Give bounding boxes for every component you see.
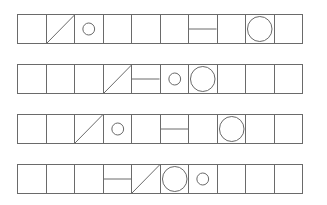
cell-empty — [188, 114, 218, 144]
cell-empty — [274, 14, 304, 44]
cell-empty — [274, 114, 304, 144]
horizontal-line-icon — [161, 115, 189, 143]
cell-small-circle — [103, 114, 133, 144]
diagonal-line-icon — [47, 15, 75, 43]
cell-large-circle — [160, 164, 190, 194]
large-circle-icon — [218, 115, 246, 143]
cell-empty — [131, 14, 161, 44]
diagonal-line-icon — [75, 115, 103, 143]
cell-horizontal-line — [160, 114, 190, 144]
small-circle-icon — [104, 115, 132, 143]
cell-empty — [17, 164, 47, 194]
cell-small-circle — [160, 64, 190, 94]
cell-large-circle — [217, 114, 247, 144]
cell-empty — [74, 164, 104, 194]
cell-large-circle — [188, 64, 218, 94]
small-circle-icon — [75, 15, 103, 43]
horizontal-line-icon — [104, 165, 132, 193]
cell-empty — [46, 164, 76, 194]
cell-empty — [217, 164, 247, 194]
cell-horizontal-line — [103, 164, 133, 194]
cell-empty — [245, 164, 275, 194]
horizontal-line-icon — [189, 15, 217, 43]
cell-empty — [131, 114, 161, 144]
cell-horizontal-line — [188, 14, 218, 44]
cell-empty — [17, 14, 47, 44]
cell-empty — [74, 64, 104, 94]
cell-row-3 — [17, 114, 303, 144]
cell-empty — [160, 14, 190, 44]
cell-empty — [46, 114, 76, 144]
diagonal-line-icon — [132, 165, 160, 193]
cell-empty — [17, 114, 47, 144]
cell-diagonal — [131, 164, 161, 194]
diagonal-line-icon — [104, 65, 132, 93]
large-circle-icon — [246, 15, 274, 43]
small-circle-icon — [189, 165, 217, 193]
cell-empty — [46, 64, 76, 94]
large-circle-icon — [161, 165, 189, 193]
cell-empty — [274, 164, 304, 194]
cell-empty — [217, 64, 247, 94]
cell-small-circle — [74, 14, 104, 44]
cell-row-4 — [17, 164, 303, 194]
small-circle-icon — [161, 65, 189, 93]
cell-empty — [103, 14, 133, 44]
cell-diagonal — [103, 64, 133, 94]
cell-empty — [245, 64, 275, 94]
cell-row-1 — [17, 14, 303, 44]
cell-small-circle — [188, 164, 218, 194]
cell-horizontal-line — [131, 64, 161, 94]
cell-empty — [17, 64, 47, 94]
cell-empty — [274, 64, 304, 94]
cell-large-circle — [245, 14, 275, 44]
cell-diagonal — [74, 114, 104, 144]
cell-diagonal — [46, 14, 76, 44]
large-circle-icon — [189, 65, 217, 93]
horizontal-line-icon — [132, 65, 160, 93]
cell-row-2 — [17, 64, 303, 94]
cell-empty — [245, 114, 275, 144]
cell-empty — [217, 14, 247, 44]
